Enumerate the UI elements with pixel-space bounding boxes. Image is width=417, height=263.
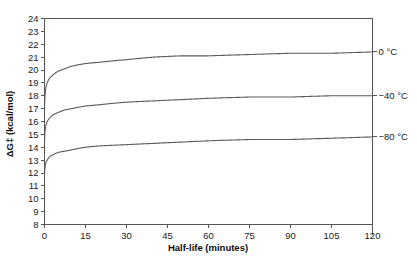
x-tick-label: 105 <box>324 230 340 241</box>
chart-container: 89101112131415161718192021222324 0153045… <box>0 0 417 263</box>
series-label-2: −40 °C <box>379 90 409 101</box>
y-tick-label: 20 <box>28 64 39 75</box>
x-tick-label: 120 <box>365 230 381 241</box>
x-tick-label: 75 <box>244 230 255 241</box>
y-tick-label: 19 <box>28 77 39 88</box>
x-tick-label: 60 <box>203 230 214 241</box>
y-tick-label: 17 <box>28 103 39 114</box>
y-tick-label: 15 <box>28 129 39 140</box>
x-tick-label: 30 <box>121 230 132 241</box>
x-tick-label: 0 <box>42 230 47 241</box>
y-axis-title: ΔG‡ (kcal/mol) <box>4 91 15 158</box>
y-tick-label: 18 <box>28 90 39 101</box>
series-label-3: −80 °C <box>379 131 409 142</box>
y-tick-label: 22 <box>28 39 39 50</box>
y-tick-label: 16 <box>28 116 39 127</box>
x-tick-label: 45 <box>162 230 173 241</box>
x-tick-label: 15 <box>80 230 91 241</box>
y-tick-label: 13 <box>28 155 39 166</box>
y-tick-label: 14 <box>28 142 39 153</box>
y-tick-label: 21 <box>28 52 39 63</box>
y-tick-label: 11 <box>29 180 39 191</box>
x-tick-label: 90 <box>285 230 296 241</box>
y-tick-label: 10 <box>28 193 39 204</box>
x-axis-title: Half-life (minutes) <box>168 242 248 253</box>
y-tick-label: 9 <box>33 206 38 217</box>
y-tick-label: 24 <box>28 13 39 24</box>
y-tick-label: 12 <box>28 167 39 178</box>
y-tick-label: 8 <box>33 219 38 230</box>
y-tick-label: 23 <box>28 26 39 37</box>
chart-background <box>0 0 417 263</box>
half-life-free-energy-chart: 89101112131415161718192021222324 0153045… <box>0 0 417 263</box>
series-label-1: 0 °C <box>379 46 398 57</box>
